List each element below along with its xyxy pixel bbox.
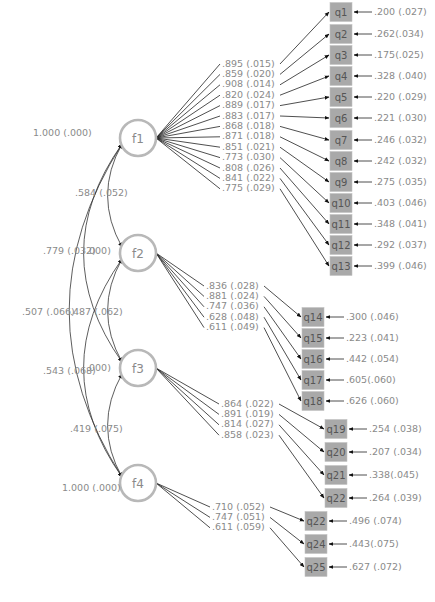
loading-label-q13: .775 (.029) <box>222 182 275 193</box>
loading-label-q15: .881 (.024) <box>206 290 259 301</box>
residual-label-q12: .292 (.037) <box>374 239 427 250</box>
item-q11: q11 <box>330 215 352 234</box>
item-q8: q8 <box>330 152 352 171</box>
factor-variance-f1: 1.000 (.000) <box>33 127 92 138</box>
item-label: q21 <box>326 470 345 481</box>
loading-label-q9: .851 (.021) <box>222 141 275 152</box>
item-q9: q9 <box>330 173 352 192</box>
item-q20: q20 <box>325 443 347 462</box>
item-q5: q5 <box>330 88 352 107</box>
item-q16: q16 <box>302 350 324 369</box>
item-label: q4 <box>335 71 348 82</box>
item-label: q8 <box>335 156 348 167</box>
item-q24: q24 <box>305 535 327 554</box>
residual-label-q9: .275 (.035) <box>374 176 427 187</box>
loading-label-q17: .628 (.048) <box>206 311 259 322</box>
item-label: q1 <box>335 7 348 18</box>
loading-label-q14: .836 (.028) <box>206 280 259 291</box>
item-q7: q7 <box>330 131 352 150</box>
loading-arrow-q21 <box>279 425 324 475</box>
factor-f3: f3 <box>120 350 156 386</box>
item-q22: q22 <box>325 489 347 508</box>
loading-fan-q10 <box>156 138 220 158</box>
loading-label-q3: .908 (.014) <box>222 78 275 89</box>
loading-label-q10: .773 (.030) <box>222 151 275 162</box>
loading-fan-q16 <box>156 253 204 307</box>
item-q18: q18 <box>302 392 324 411</box>
item-label: q15 <box>303 333 322 344</box>
residual-label-q7: .246 (.032) <box>374 134 427 145</box>
residual-label-q11: .348 (.041) <box>374 218 427 229</box>
loading-arrow-q5 <box>280 97 329 106</box>
loading-fan-q21 <box>156 368 219 425</box>
loading-label-q11: .808 (.026) <box>222 162 275 173</box>
loading-arrow-q3 <box>280 55 329 85</box>
loading-arrow-q1 <box>280 12 329 64</box>
loading-arrow-q15 <box>264 296 301 338</box>
factor-f4: f4 <box>120 465 156 501</box>
item-q3: q3 <box>330 46 352 65</box>
loading-label-q5: .889 (.017) <box>222 99 275 110</box>
loading-arrow-q4 <box>280 76 329 95</box>
residual-label-q16: .442 (.054) <box>346 353 399 364</box>
item-label: q24 <box>306 539 325 550</box>
loading-label-q22: .858 (.023) <box>221 429 274 440</box>
residual-label-q19: .254 (.038) <box>369 423 422 434</box>
loading-arrow-q13 <box>280 189 329 266</box>
item-q25: q25 <box>305 558 327 577</box>
loading-label-q20: .891 (.019) <box>221 408 274 419</box>
residual-label-q1: .200 (.027) <box>374 6 427 17</box>
item-label: q14 <box>303 312 322 323</box>
loading-label-q24: .747 (.051) <box>212 511 265 522</box>
loading-label-q6: .883 (.017) <box>222 110 275 121</box>
item-label: q6 <box>335 113 348 124</box>
loading-arrow-q6 <box>280 116 329 118</box>
residual-label-q15: .223 (.041) <box>346 332 399 343</box>
item-label: q12 <box>331 240 350 251</box>
residual-label-q10: .403 (.046) <box>374 197 427 208</box>
loading-arrow-q24 <box>270 517 304 544</box>
residual-label-q13: .399 (.046) <box>374 260 427 271</box>
item-q21: q21 <box>325 466 347 485</box>
factor-f2: f2 <box>120 235 156 271</box>
loading-fan-q3 <box>156 85 220 138</box>
factor-variance-f4: 1.000 (.000) <box>62 482 121 493</box>
residual-label-q24: .443(.075) <box>349 538 399 549</box>
residual-label-q8: .242 (.032) <box>374 155 427 166</box>
loading-fan-q5 <box>156 106 220 138</box>
item-label: q2 <box>335 29 348 40</box>
item-label: q7 <box>335 135 348 146</box>
correlation-label-f3-f4: .419 (.075) <box>70 423 123 434</box>
residual-label-q2: .262(.034) <box>374 28 424 39</box>
loading-arrow-q2 <box>280 34 329 74</box>
item-label: q18 <box>303 396 322 407</box>
item-label: q25 <box>306 562 325 573</box>
loading-arrow-q22 <box>279 435 324 498</box>
loading-arrow-q17 <box>264 317 301 380</box>
item-q14: q14 <box>302 308 324 327</box>
correlation-label-f1-f2: .584 (.052) <box>75 187 128 198</box>
loading-label-q22: .710 (.052) <box>212 501 265 512</box>
item-q22: q22 <box>305 512 327 531</box>
item-q12: q12 <box>330 236 352 255</box>
item-q15: q15 <box>302 329 324 348</box>
factor-label: f3 <box>132 362 144 376</box>
residual-label-q22: .264 (.039) <box>369 492 422 503</box>
loading-arrow-q22 <box>270 507 304 521</box>
loading-label-q18: .611 (.049) <box>206 321 259 332</box>
loading-arrow-q14 <box>264 286 301 317</box>
residual-label-q3: .175(.025) <box>374 49 424 60</box>
loading-arrow-q8 <box>280 137 329 161</box>
correlation-label-f2-f3: .487 (.062) <box>70 306 123 317</box>
factor-label: f2 <box>132 247 144 261</box>
loading-label-q19: .864 (.022) <box>221 398 274 409</box>
residual-label-q14: .300 (.046) <box>346 311 399 322</box>
item-q6: q6 <box>330 109 352 128</box>
residual-label-q20: .207 (.034) <box>369 446 422 457</box>
item-label: q3 <box>335 50 348 61</box>
residual-label-q5: .220 (.029) <box>374 91 427 102</box>
item-label: q16 <box>303 354 322 365</box>
loading-fan-q20 <box>156 368 219 414</box>
loading-fan-q17 <box>156 253 204 317</box>
item-label: q22 <box>326 493 345 504</box>
